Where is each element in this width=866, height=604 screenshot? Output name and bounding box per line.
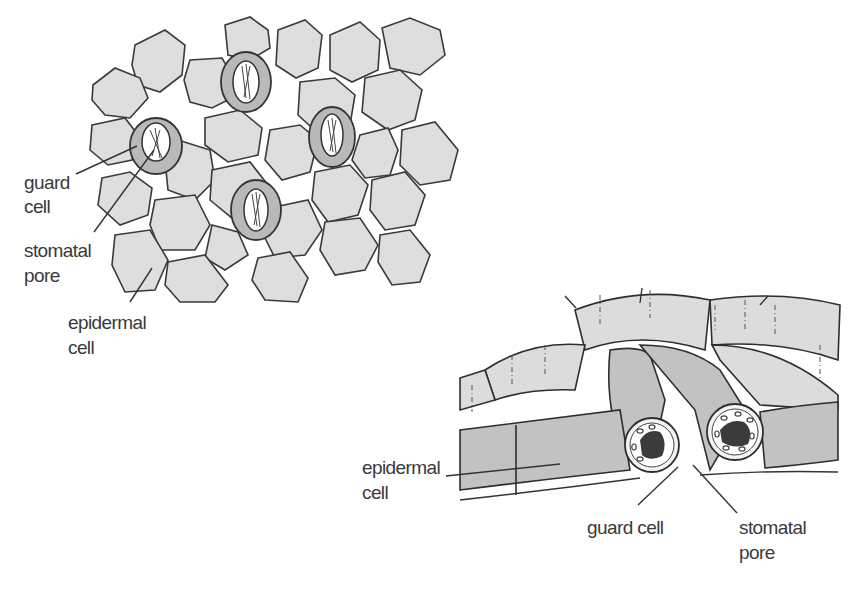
guard-cell-left bbox=[625, 418, 679, 472]
diagram-canvas: guard cell stomatal pore epidermal cell bbox=[0, 0, 866, 604]
section-view: epidermal cell guard cell stomatal pore bbox=[362, 288, 840, 563]
label-section-epidermal-cell-2: cell bbox=[362, 482, 388, 503]
surface-view: guard cell stomatal pore epidermal cell bbox=[24, 17, 458, 358]
label-section-stomatal-pore-1: stomatal bbox=[739, 517, 806, 538]
guard-cell-right bbox=[707, 404, 763, 460]
leader-section-guard-cell bbox=[638, 467, 678, 505]
stoma-4 bbox=[231, 180, 281, 240]
label-stomatal-pore-1: stomatal bbox=[24, 240, 91, 261]
label-guard-cell-1: guard bbox=[24, 172, 70, 193]
label-section-epidermal-cell-1: epidermal bbox=[362, 457, 440, 478]
label-section-stomatal-pore-2: pore bbox=[739, 542, 775, 563]
leader-section-stomatal-pore bbox=[693, 465, 737, 513]
stoma-2 bbox=[130, 118, 182, 174]
label-section-guard-cell: guard cell bbox=[587, 517, 663, 538]
stoma-3 bbox=[309, 107, 355, 167]
label-stomatal-pore-2: pore bbox=[24, 265, 60, 286]
stoma-1 bbox=[221, 52, 271, 112]
label-epidermal-cell-1: epidermal bbox=[68, 312, 146, 333]
label-epidermal-cell-2: cell bbox=[68, 337, 94, 358]
label-guard-cell-2: cell bbox=[24, 196, 50, 217]
